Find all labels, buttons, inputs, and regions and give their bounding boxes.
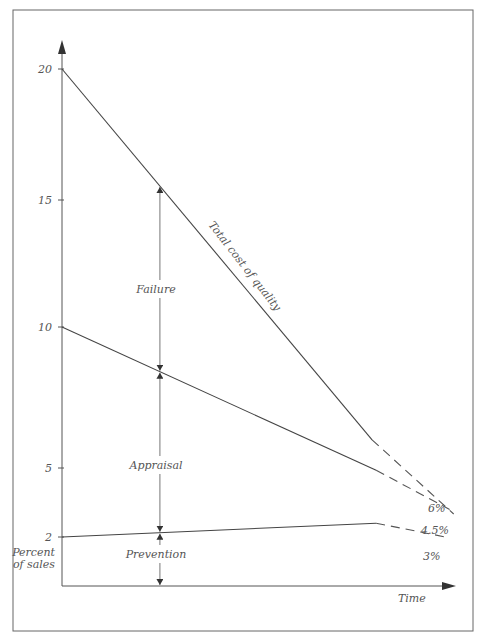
series-group [62,69,454,537]
y-ticks [58,69,64,537]
x-axis-arrow-icon [442,582,456,590]
y-tick-label-2: 2 [44,531,52,544]
y-axis-label-line2: of sales [13,558,55,571]
y-tick-label-5: 5 [45,462,52,475]
failure-label: Failure [135,283,176,296]
prevention-label: Prevention [125,548,187,561]
y-tick-label-15: 15 [38,194,52,207]
chart-frame [13,10,473,631]
y-axis-arrow-icon [58,40,66,54]
series-line-0 [62,69,372,440]
total-cost-line-label: Total cost of quality [206,219,284,314]
end-label-total: 6% [428,502,445,515]
y-tick-label-20: 20 [37,63,52,76]
x-axis-label: Time [398,592,426,605]
series-line-2 [62,523,376,537]
appraisal-label: Appraisal [128,459,183,472]
y-tick-label-10: 10 [38,321,52,334]
end-label-prevention: 3% [423,550,440,563]
end-label-appraisal: 4.5% [420,524,449,537]
quality-cost-chart: 20 15 10 5 2 Percent of sales Time Failu… [0,0,482,639]
series-line-1 [62,327,376,470]
